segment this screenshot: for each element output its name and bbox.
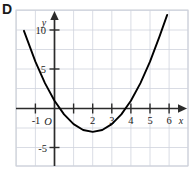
- x-tick-label-neg1: -1: [32, 115, 41, 126]
- y-tick-label-10: 10: [36, 25, 47, 36]
- graph-figure: D: [0, 0, 195, 171]
- x-tick-label-5: 5: [147, 115, 152, 126]
- x-tick-label-4: 4: [128, 115, 134, 126]
- panel-letter: D: [2, 2, 12, 16]
- y-tick-label-neg5: -5: [38, 143, 47, 154]
- y-tick-label-5: 5: [41, 64, 46, 75]
- origin-label: O: [44, 116, 52, 127]
- x-tick-label-6: 6: [166, 115, 171, 126]
- x-axis-label: x: [178, 115, 184, 126]
- coordinate-plane: y x 10 5 -5 O -1 2 3 4 5 6: [0, 0, 195, 171]
- x-tick-label-2: 2: [90, 115, 95, 126]
